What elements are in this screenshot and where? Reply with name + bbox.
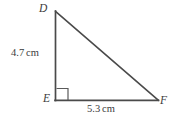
geometry-figure-canvas: D E F 4.7cm 5.3cm (0, 0, 171, 119)
side-length-value-de: 4.7 (11, 47, 24, 58)
vertex-label-e: E (43, 93, 50, 105)
triangle-outline (55, 11, 159, 101)
side-length-label-ef: 5.3cm (87, 104, 115, 115)
triangle-def-drawing (0, 0, 171, 119)
right-angle-marker (57, 89, 69, 101)
side-length-unit-de: cm (26, 47, 39, 58)
side-df-hypotenuse (56, 11, 159, 100)
vertex-label-d: D (39, 3, 47, 15)
side-length-value-ef: 5.3 (87, 103, 100, 114)
side-length-unit-ef: cm (102, 103, 115, 114)
vertex-label-f: F (160, 95, 167, 107)
side-length-label-de: 4.7cm (11, 48, 39, 59)
